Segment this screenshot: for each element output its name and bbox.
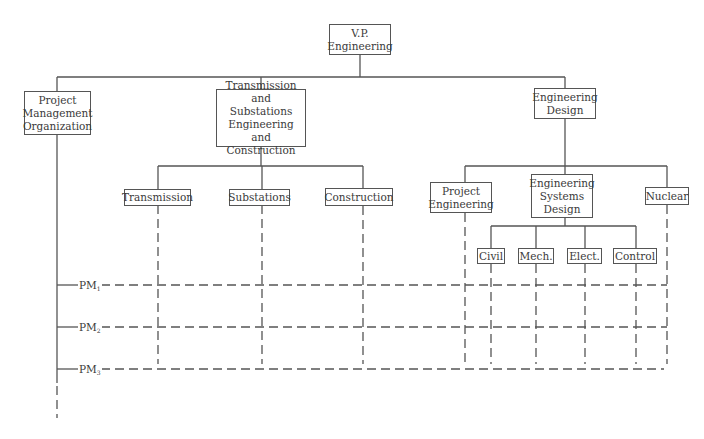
pm2-subscript: 2 (97, 327, 101, 334)
transmission-substations-eng-construction-box: Transmission and Substations Engineering… (216, 89, 306, 147)
construction-box: Construction (325, 188, 393, 206)
mech-box: Mech. (518, 248, 554, 264)
pm3-text: PM (79, 363, 97, 375)
civil-box: Civil (477, 248, 505, 264)
org-chart-canvas: V.P. Engineering Project Management Orga… (0, 0, 704, 439)
pm3-subscript: 3 (97, 369, 101, 376)
pm1-text: PM (79, 279, 97, 291)
vp-engineering-box: V.P. Engineering (329, 24, 391, 55)
pm2-label: PM2 (78, 321, 102, 337)
pm3-label: PM3 (78, 363, 102, 379)
pm1-label: PM1 (78, 279, 102, 295)
engineering-design-box: Engineering Design (534, 88, 596, 119)
substations-box: Substations (229, 189, 290, 206)
transmission-box: Transmission (124, 189, 191, 206)
control-box: Control (613, 248, 657, 264)
nuclear-box: Nuclear (645, 187, 689, 205)
pm2-text: PM (79, 321, 97, 333)
pm1-subscript: 1 (97, 285, 101, 292)
engineering-systems-design-box: Engineering Systems Design (531, 174, 593, 218)
connector-lines (0, 0, 704, 439)
project-engineering-box: Project Engineering (430, 182, 492, 213)
project-management-organization-box: Project Management Organization (24, 91, 91, 135)
elect-box: Elect. (567, 248, 602, 264)
